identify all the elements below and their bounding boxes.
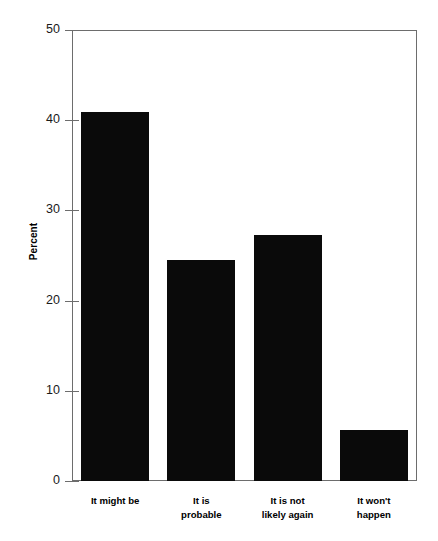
bar: [167, 260, 235, 481]
x-axis-label: It won'thappen: [319, 494, 429, 522]
x-axis-label-line: It won't: [319, 494, 429, 508]
x-axis-label-line: happen: [319, 508, 429, 522]
bar: [254, 235, 322, 481]
bar: [340, 430, 408, 481]
bar-chart: Percent 01020304050 It might beIt isprob…: [0, 0, 438, 541]
bars-layer: [0, 0, 438, 541]
bar: [81, 112, 149, 481]
